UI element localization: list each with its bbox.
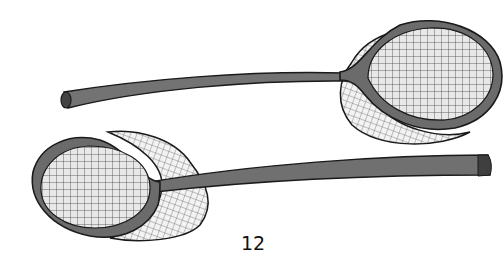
bottom-net-handle	[150, 155, 490, 192]
page-number: 12	[238, 232, 268, 254]
bottom-net-handle-end	[478, 155, 491, 176]
nets-illustration	[0, 0, 503, 268]
top-net-handle-end	[61, 92, 71, 108]
bottom-net-mesh	[41, 146, 150, 228]
bottom-net	[32, 131, 491, 240]
top-net-handle	[64, 72, 348, 108]
top-net	[61, 21, 502, 144]
